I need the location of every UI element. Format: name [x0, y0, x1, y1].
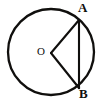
vertex-point-a — [78, 19, 80, 21]
point-label-o: O — [37, 46, 45, 57]
point-label-a: A — [78, 1, 87, 14]
radius-segment-ob — [51, 53, 79, 88]
point-label-b: B — [79, 87, 88, 100]
geometry-figure: A B O — [0, 0, 100, 102]
radius-segment-oa — [51, 20, 79, 53]
